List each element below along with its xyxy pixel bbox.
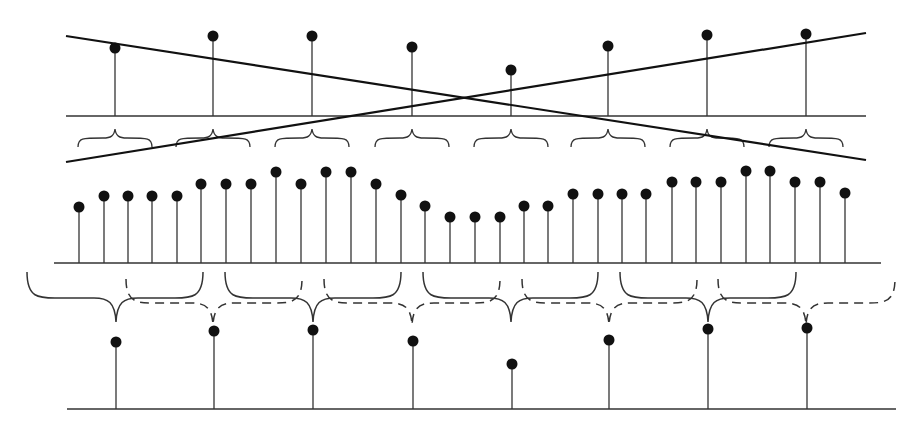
sample-dot	[507, 359, 518, 370]
sample-dot	[396, 190, 407, 201]
solid-grouping-brace	[423, 272, 598, 322]
sample-dot	[702, 30, 713, 41]
sample-dot	[790, 177, 801, 188]
sample-dot	[667, 177, 678, 188]
bottom-stem-row	[67, 323, 896, 410]
solid-grouping-brace	[27, 272, 203, 322]
solid-grouping-brace	[225, 272, 401, 322]
sample-dot	[271, 167, 282, 178]
sample-dot	[604, 335, 615, 346]
sample-dot	[420, 201, 431, 212]
sample-dot	[111, 337, 122, 348]
sample-dot	[321, 167, 332, 178]
sample-dot	[74, 202, 85, 213]
sample-dot	[445, 212, 456, 223]
grouping-brace	[78, 129, 152, 147]
sample-dot	[196, 179, 207, 190]
crossing-line	[66, 33, 866, 162]
dashed-grouping-brace	[126, 279, 302, 325]
sample-dot	[691, 177, 702, 188]
sample-dot	[308, 325, 319, 336]
grouping-brace	[571, 129, 645, 147]
sample-dot	[741, 166, 752, 177]
sample-dot	[840, 188, 851, 199]
sample-dot	[221, 179, 232, 190]
sample-dot	[208, 31, 219, 42]
sample-dot	[296, 179, 307, 190]
sample-dot	[716, 177, 727, 188]
middle-stem-row	[54, 166, 881, 264]
sample-dot	[617, 189, 628, 200]
sample-dot	[209, 326, 220, 337]
top-stem-row	[66, 29, 866, 117]
grouping-brace	[375, 129, 449, 147]
sample-dot	[470, 212, 481, 223]
sample-dot	[506, 65, 517, 76]
sample-dot	[123, 191, 134, 202]
sample-dot	[815, 177, 826, 188]
solid-grouping-brace	[620, 272, 796, 322]
sample-dot	[568, 189, 579, 200]
sample-dot	[172, 191, 183, 202]
dashed-grouping-brace	[324, 279, 500, 325]
sample-dot	[346, 167, 357, 178]
sample-dot	[495, 212, 506, 223]
sample-dot	[703, 324, 714, 335]
bottom-brace-row	[27, 272, 895, 325]
sample-dot	[641, 189, 652, 200]
sample-dot	[307, 31, 318, 42]
sampling-diagram	[0, 0, 923, 433]
grouping-brace	[769, 129, 843, 147]
sample-dot	[246, 179, 257, 190]
sample-dot	[765, 166, 776, 177]
sample-dot	[593, 189, 604, 200]
grouping-brace	[275, 129, 349, 147]
sample-dot	[801, 29, 812, 40]
dashed-grouping-brace	[718, 279, 895, 325]
sample-dot	[407, 42, 418, 53]
sample-dot	[543, 201, 554, 212]
sample-dot	[519, 201, 530, 212]
dashed-grouping-brace	[522, 279, 697, 325]
crossing-lines	[66, 33, 866, 162]
sample-dot	[99, 191, 110, 202]
sample-dot	[603, 41, 614, 52]
sample-dot	[802, 323, 813, 334]
grouping-brace	[474, 129, 548, 147]
sample-dot	[147, 191, 158, 202]
sample-dot	[371, 179, 382, 190]
sample-dot	[408, 336, 419, 347]
